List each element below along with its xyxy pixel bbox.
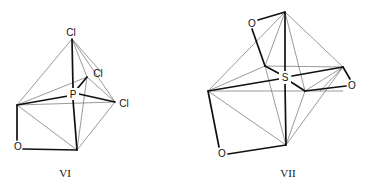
structure-vi: P Cl Cl Cl O VI: [14, 27, 129, 180]
molecular-geometry-diagram: P Cl Cl Cl O VI: [0, 0, 372, 186]
chlorine-atom-label-right: Cl: [119, 98, 128, 109]
sulfur-atom-label: S: [282, 72, 289, 83]
oxygen-atom-label-bottom: O: [218, 148, 226, 159]
phosphorus-atom-label: P: [70, 89, 77, 100]
structure-label-vi: VI: [59, 167, 71, 179]
oxygen-atom-label: O: [14, 141, 22, 152]
oxygen-atom-label-top: O: [248, 18, 256, 29]
structure-vii: S O O O VII: [208, 12, 356, 179]
structure-label-vii: VII: [280, 167, 296, 179]
structure-vi-polyhedron-edges: [17, 39, 115, 150]
structure-vi-bonds: [17, 39, 115, 150]
chlorine-atom-label-back: Cl: [93, 68, 102, 79]
chlorine-atom-label-top: Cl: [66, 27, 75, 38]
structure-vii-polyhedron-edges: [208, 12, 343, 145]
oxygen-atom-label-right: O: [348, 80, 356, 91]
